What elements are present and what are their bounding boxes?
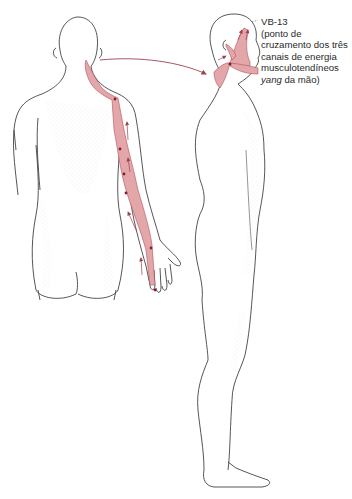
annotation-line-5: yang da mão) [261,74,348,86]
annotation-line-1: (ponto de [261,28,348,40]
posterior-channel [85,60,156,291]
posterior-shading [38,100,114,288]
head-channel [214,28,258,88]
annotation-line-5-rest: da mão) [282,74,320,85]
cropped-caption [0,490,352,499]
vb13-point [229,63,232,66]
connector-arrow [100,59,206,74]
annotation-line-3: canais de energia [261,51,348,63]
annotation-line-4: musculotendíneos [261,62,348,74]
annotation-label: VB-13 (ponto de cruzamento dos três cana… [261,16,348,86]
italic-yang: yang [261,74,282,85]
annotation-line-2: cruzamento dos três [261,39,348,51]
lateral-shading [230,110,260,372]
point-name: VB-13 [261,16,348,28]
label-leader [252,20,258,22]
lateral-figure [195,14,269,487]
